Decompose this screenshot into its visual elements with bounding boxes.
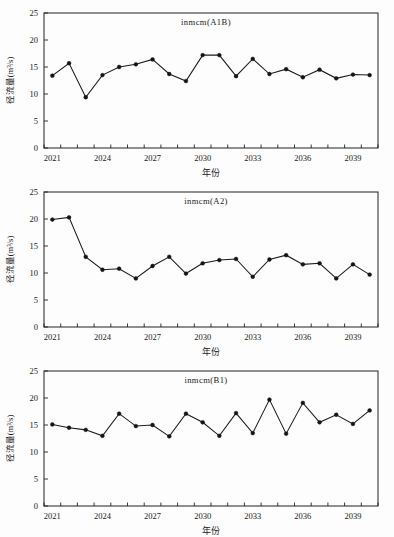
y-tick-label: 0 (34, 322, 38, 332)
data-point (101, 268, 105, 272)
data-point (167, 72, 171, 76)
data-point (268, 398, 272, 402)
x-tick-label: 2033 (244, 511, 261, 521)
data-point (50, 423, 54, 427)
y-tick-label: 0 (34, 143, 38, 153)
y-tick-label: 5 (34, 116, 38, 126)
x-axis-title: 年份 (202, 525, 220, 536)
data-point (234, 74, 238, 78)
data-point (217, 258, 221, 262)
x-tick-label: 2021 (44, 511, 61, 521)
plot-title: inmcm(B1) (184, 375, 227, 385)
data-point (67, 426, 71, 430)
x-tick-label: 2024 (94, 153, 112, 163)
y-tick-label: 10 (30, 447, 39, 457)
plot-frame (44, 13, 378, 148)
plot-frame (44, 371, 378, 506)
y-tick-label: 15 (30, 420, 39, 430)
data-point (318, 68, 322, 72)
data-point (251, 431, 255, 435)
data-point (84, 428, 88, 432)
data-point (50, 218, 54, 222)
y-axis-title: 径流量(m³/s) (5, 415, 15, 463)
data-point (84, 255, 88, 259)
data-point (67, 215, 71, 219)
data-point (368, 73, 372, 77)
y-tick-label: 5 (34, 295, 38, 305)
data-point (301, 262, 305, 266)
data-point (268, 72, 272, 76)
chart-panel-a2: 05101520252021202420272030203320362039年份… (0, 179, 394, 358)
y-tick-label: 20 (30, 35, 39, 45)
x-tick-label: 2039 (344, 153, 361, 163)
data-point (84, 95, 88, 99)
data-point (318, 261, 322, 265)
series-line (52, 217, 369, 278)
x-tick-label: 2024 (94, 332, 112, 342)
y-tick-label: 10 (30, 89, 39, 99)
data-point (217, 434, 221, 438)
data-point (134, 62, 138, 66)
data-point (151, 264, 155, 268)
data-point (334, 76, 338, 80)
plot-title: inmcm(A1B) (181, 17, 231, 27)
data-point (284, 67, 288, 71)
series-line (52, 55, 369, 97)
x-tick-label: 2039 (344, 332, 361, 342)
x-tick-label: 2024 (94, 511, 112, 521)
data-point (201, 420, 205, 424)
data-point (117, 65, 121, 69)
y-tick-label: 15 (30, 62, 39, 72)
y-tick-label: 20 (30, 393, 39, 403)
data-point (351, 73, 355, 77)
data-point (351, 422, 355, 426)
y-tick-label: 0 (34, 501, 38, 511)
data-point (284, 432, 288, 436)
data-point (167, 255, 171, 259)
chart-svg: 05101520252021202420272030203320362039年份… (0, 179, 394, 358)
x-tick-label: 2036 (294, 153, 311, 163)
data-point (301, 401, 305, 405)
chart-panel-b1: 05101520252021202420272030203320362039年份… (0, 358, 394, 537)
x-tick-label: 2033 (244, 153, 261, 163)
data-point (117, 412, 121, 416)
data-point (134, 277, 138, 281)
y-tick-label: 25 (30, 366, 39, 376)
x-tick-label: 2027 (144, 332, 161, 342)
data-point (334, 413, 338, 417)
chart-panel-a1b: 05101520252021202420272030203320362039年份… (0, 0, 394, 179)
series-line (52, 400, 369, 437)
y-tick-label: 15 (30, 241, 39, 251)
data-point (351, 262, 355, 266)
data-point (101, 434, 105, 438)
data-point (151, 423, 155, 427)
data-point (251, 275, 255, 279)
plot-frame (44, 192, 378, 327)
y-tick-label: 10 (30, 268, 39, 278)
data-point (50, 74, 54, 78)
data-point (167, 434, 171, 438)
y-axis-title: 径流量(m³/s) (5, 57, 15, 105)
chart-svg: 05101520252021202420272030203320362039年份… (0, 0, 394, 179)
data-point (184, 79, 188, 83)
x-tick-label: 2030 (194, 153, 211, 163)
data-point (234, 257, 238, 261)
x-axis-title: 年份 (202, 346, 220, 357)
x-tick-label: 2033 (244, 332, 261, 342)
data-point (184, 272, 188, 276)
x-tick-label: 2027 (144, 153, 161, 163)
x-tick-label: 2027 (144, 511, 161, 521)
data-point (284, 253, 288, 257)
data-point (201, 53, 205, 57)
y-tick-label: 5 (34, 474, 38, 484)
figure-page: 05101520252021202420272030203320362039年份… (0, 0, 394, 537)
data-point (201, 261, 205, 265)
data-point (334, 277, 338, 281)
x-tick-label: 2039 (344, 511, 361, 521)
data-point (234, 411, 238, 415)
data-point (67, 61, 71, 65)
x-axis-title: 年份 (202, 167, 220, 178)
x-tick-label: 2030 (194, 511, 211, 521)
data-point (368, 409, 372, 413)
plot-title: inmcm(A2) (184, 196, 228, 206)
